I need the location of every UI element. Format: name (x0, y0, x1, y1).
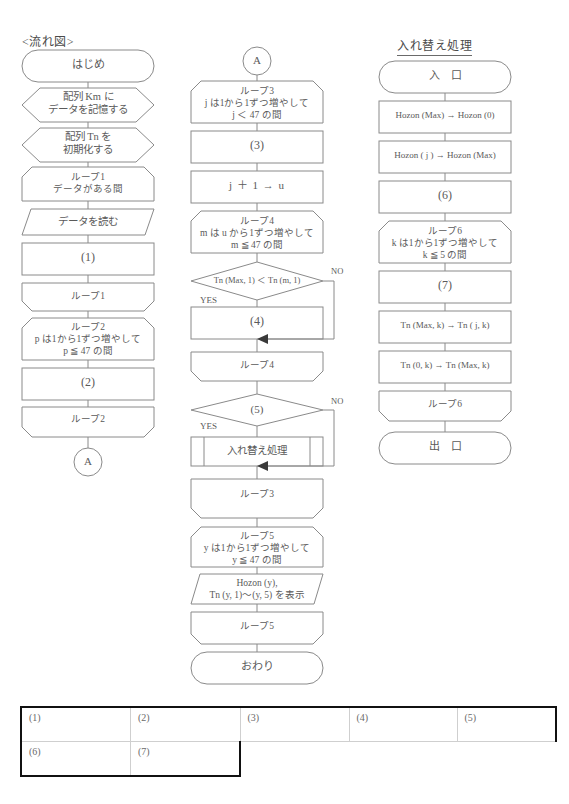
node-loop6-end-label: ループ6 (379, 399, 511, 411)
node-loop6-start-label: ループ6 k は1から1ずつ増やして k ≦ 5 の間 (377, 226, 513, 262)
node-swap-call-label: 入れ替え処理 (204, 444, 310, 457)
edge-no-blank5 (323, 410, 334, 466)
table-cell-5[interactable]: (5) (457, 707, 556, 742)
node-blank4-label: (4) (191, 314, 323, 329)
node-loop1-end-label: ループ1 (22, 291, 154, 303)
node-loop3-start-label: ループ3 j は1から1ずつ増やして j ＜ 47 の間 (191, 86, 323, 122)
branch-no-compare: NO (331, 266, 343, 277)
node-connector-a-out-label: A (74, 455, 102, 469)
edge-no-compare (323, 281, 334, 339)
table-cell-6[interactable]: (6) (21, 742, 131, 777)
arrowhead-no-blank5 (257, 461, 268, 471)
node-blank6-label: (6) (379, 188, 511, 203)
node-km-store-label: 配列 Km に データを記憶する (22, 90, 154, 116)
node-loop4-start-label: ループ4 m は u から1ずつ増やして m ≦ 47 の間 (189, 216, 325, 252)
node-loop5-start-label: ループ5 y は1から1ずつ増やして y ≦ 47 の間 (189, 531, 325, 567)
node-loop5-end-label: ループ5 (191, 621, 323, 633)
answer-table-grid: (1) (2) (3) (4) (5) (6) (7) (20, 706, 557, 777)
right-column-title: 入れ替え処理 (397, 36, 472, 56)
node-loop2-end-label: ループ2 (22, 414, 154, 426)
node-blank5-label: (5) (191, 403, 323, 417)
node-loop4-end-label: ループ4 (191, 360, 323, 372)
node-tn-init-label: 配列 Tn を 初期化する (22, 130, 154, 156)
node-loop3-end-label: ループ3 (191, 489, 323, 501)
node-start-label: はじめ (22, 58, 154, 72)
node-tn2-label: Tn (0, k) → Tn (Max, k) (379, 360, 511, 371)
table-cell-2[interactable]: (2) (131, 707, 241, 742)
node-end-label: おわり (191, 660, 323, 674)
table-row: (6) (7) (21, 742, 556, 777)
branch-yes-compare: YES (200, 295, 217, 306)
node-tn1-label: Tn (Max, k) → Tn ( j, k) (379, 320, 511, 331)
table-cell-1[interactable]: (1) (21, 707, 131, 742)
table-cell-4[interactable]: (4) (349, 707, 457, 742)
node-blank1-label: (1) (22, 250, 154, 265)
answer-table: (1) (2) (3) (4) (5) (6) (7) (20, 706, 557, 777)
node-read-data-label: データを読む (22, 215, 154, 228)
node-sub-entry-label: 入 口 (379, 69, 511, 83)
table-cell-7[interactable]: (7) (131, 742, 241, 777)
node-hz1-label: Hozon (Max) → Hozon (0) (379, 110, 511, 121)
node-blank2-label: (2) (22, 375, 154, 390)
node-blank7-label: (7) (379, 278, 511, 293)
table-cell-empty (240, 742, 556, 777)
node-loop1-start-label: ループ1 データがある間 (22, 172, 154, 196)
node-loop2-start-label: ループ2 p は1から1ずつ増やして p ≦ 47 の間 (22, 322, 154, 358)
node-j-plus-label: j ＋ 1 → u (191, 179, 323, 193)
table-row: (1) (2) (3) (4) (5) (21, 707, 556, 742)
branch-yes-blank5: YES (200, 421, 217, 432)
left-column-title: <流れ図> (22, 32, 74, 50)
branch-no-blank5: NO (331, 396, 343, 407)
arrowhead-no-compare (257, 334, 268, 344)
node-sub-exit-label: 出 口 (379, 440, 511, 454)
table-cell-3[interactable]: (3) (240, 707, 349, 742)
node-display-label: Hozon (y), Tn (y, 1)〜(y, 5) を表示 (191, 578, 323, 602)
node-blank3-label: (3) (191, 138, 323, 153)
node-connector-a-in-label: A (243, 54, 271, 68)
node-hz2-label: Hozon ( j ) → Hozon (Max) (379, 150, 511, 161)
node-decision-compare-label: Tn (Max, 1) ＜ Tn (m, 1) (191, 275, 323, 286)
